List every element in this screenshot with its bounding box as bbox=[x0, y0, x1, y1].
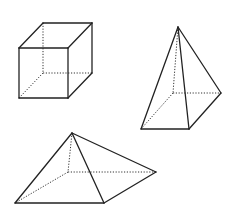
visible-edge bbox=[141, 27, 178, 129]
visible-edge bbox=[68, 73, 92, 98]
hidden-edge bbox=[19, 73, 43, 98]
geometric-solids-figure bbox=[0, 0, 232, 214]
visible-edge bbox=[19, 23, 43, 48]
visible-edge bbox=[15, 133, 72, 203]
flat-square-pyramid bbox=[15, 133, 156, 203]
hidden-edge bbox=[15, 172, 68, 203]
visible-edge bbox=[104, 172, 156, 203]
hidden-edge bbox=[68, 133, 72, 172]
visible-edge bbox=[189, 93, 221, 129]
tall-square-pyramid bbox=[141, 27, 221, 129]
hidden-edge bbox=[141, 93, 173, 129]
visible-edge bbox=[68, 23, 92, 48]
cube bbox=[19, 23, 92, 98]
visible-edge bbox=[72, 133, 104, 203]
visible-edge bbox=[72, 133, 156, 172]
